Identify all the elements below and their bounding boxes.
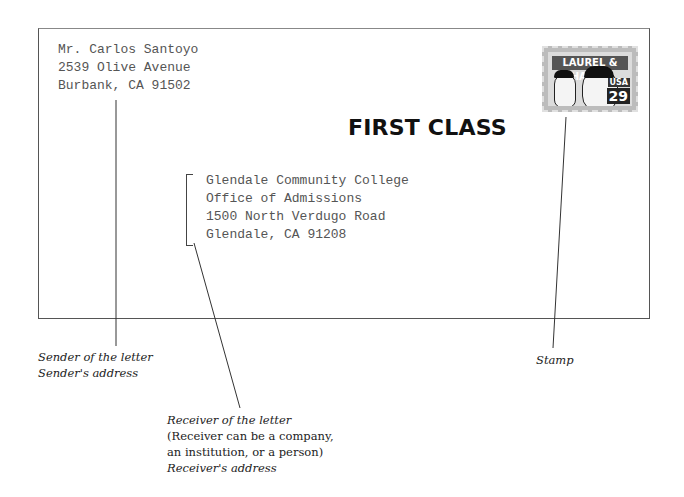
receiver-label-address: Receiver's address [167, 460, 334, 476]
callout-lines [0, 0, 684, 497]
receiver-label-note-1: (Receiver can be a company, [167, 428, 334, 444]
sender-label-title: Sender of the letter [38, 349, 153, 365]
receiver-label-title: Receiver of the letter [167, 412, 334, 428]
sender-label: Sender of the letter Sender's address [38, 349, 153, 381]
sender-label-address: Sender's address [38, 365, 153, 381]
receiver-label-note-2: an institution, or a person) [167, 444, 334, 460]
stamp-label: Stamp [536, 352, 574, 368]
receiver-label: Receiver of the letter (Receiver can be … [167, 412, 334, 476]
